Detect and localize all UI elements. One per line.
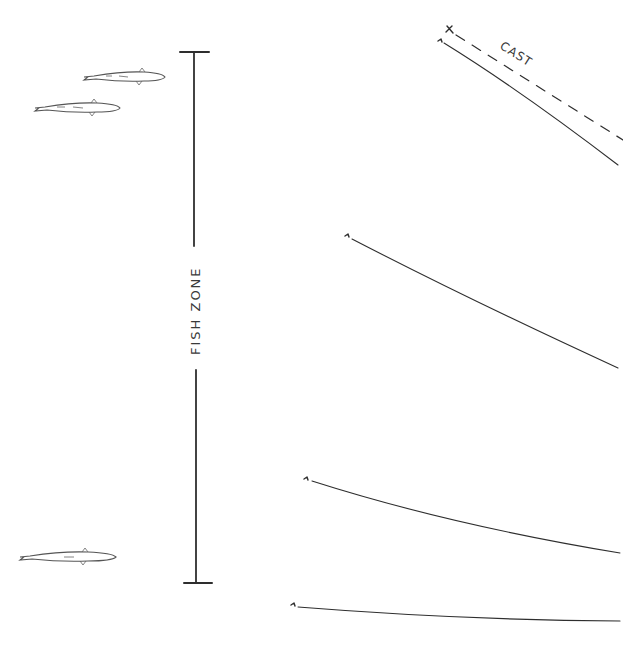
fish-icon [84,68,165,85]
fishing-diagram: FISH ZONE CAST [0,0,623,647]
cast-path: CAST [446,26,623,140]
fishing-line [345,234,618,368]
fish-icon [20,548,116,565]
fishing-line [291,603,620,621]
cast-label: CAST [497,39,535,70]
fish-icon [35,99,120,116]
fish-zone-marker: FISH ZONE [180,52,212,583]
fishing-line [304,477,620,553]
fish-zone-label: FISH ZONE [188,266,203,355]
